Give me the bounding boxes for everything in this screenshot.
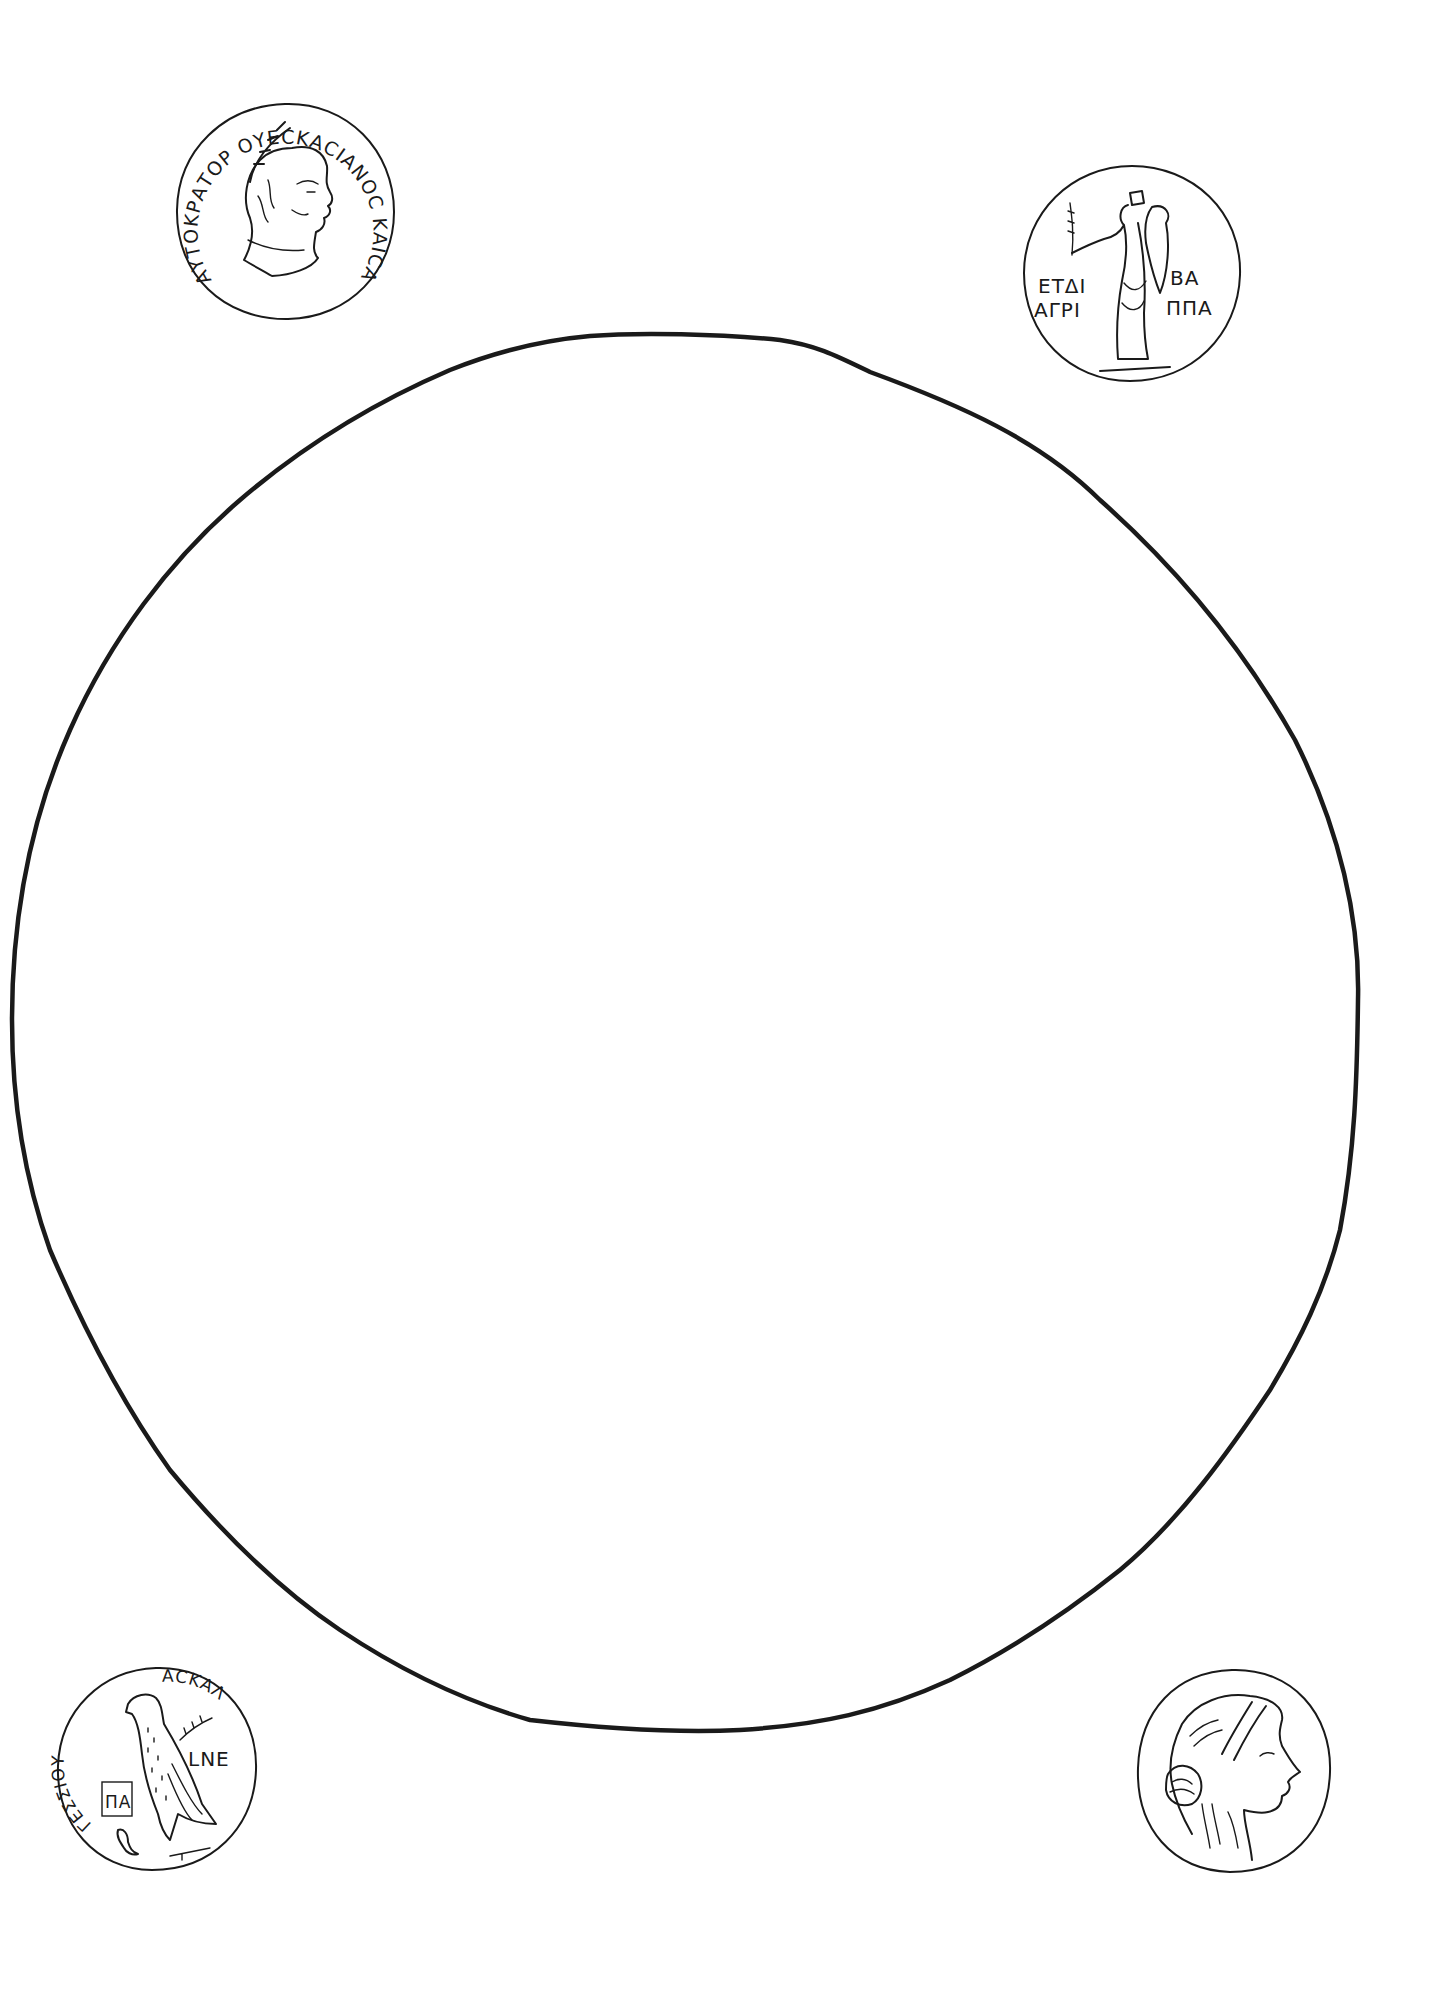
coin-rim [1138,1670,1330,1872]
field-date: LNΕ [188,1747,230,1771]
coin-top-left: ΑΥΤΟΚΡΑΤΟΡ ΟΥΕCΚΑCΙΑΝΟC ΚΑΙCΑΡ CΕΒΑCΤΟC [172,100,398,322]
legend-left-bottom: ΑΓΡΙ [1034,298,1081,322]
legend-left-top: ΕΤΔΙ [1038,274,1086,298]
legend-right-top: ΒΑ [1170,266,1199,290]
hair-band [1222,1702,1266,1760]
small-bird-icon [117,1830,138,1855]
legend-right-bottom: ΠΠΑ [1166,296,1213,320]
coin-inscription: ΑΥΤΟΚΡΑΤΟΡ ΟΥΕCΚΑCΙΑΝΟC ΚΑΙCΑΡ CΕΒΑCΤΟC [164,82,392,289]
cornucopia-icon [1145,206,1168,293]
emperor-head [244,147,332,276]
palm-branch-icon [1068,203,1074,255]
coin-inscription-left: ΓΕΣΣΙΟΥ [47,1754,94,1836]
monogram: ΠΑ [105,1792,131,1812]
coin-inscription-right: ΑСΚΑΛ [162,1666,230,1704]
coin-bottom-right [1132,1664,1334,1876]
coin-bottom-left: ΓΕΣΣΙΟΥ ΑСΚΑΛ LNΕ ΠΑ [52,1664,260,1874]
coin-top-right: ΕΤΔΙ ΒΑ ΑΓΡΙ ΠΠΑ [1020,163,1244,385]
frame-circle [12,334,1358,1731]
palm-branch-icon [180,1716,212,1740]
